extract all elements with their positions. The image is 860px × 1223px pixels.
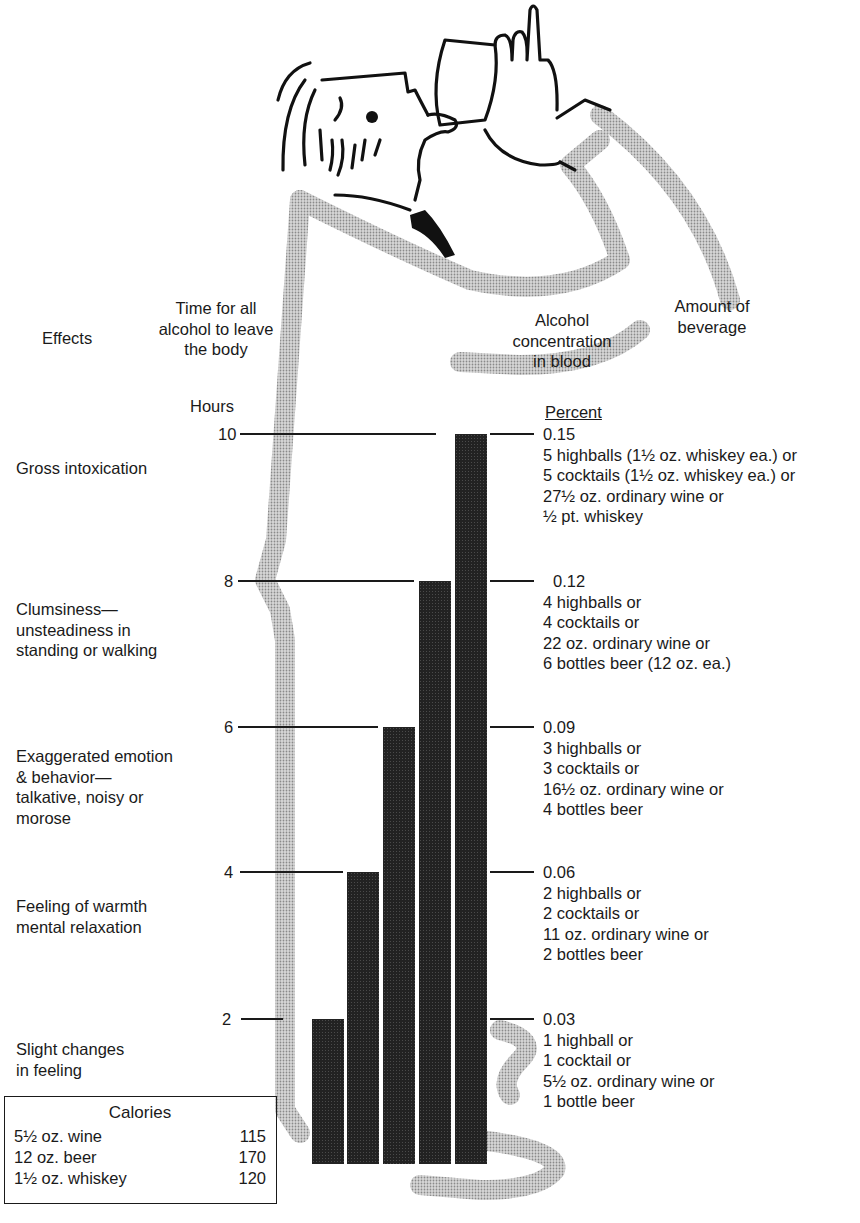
- beverage-level-10: 0.15 5 highballs (1½ oz. whiskey ea.) or…: [543, 424, 797, 527]
- time-header-line: the body: [140, 339, 292, 360]
- effect-line: Clumsiness—: [16, 599, 157, 620]
- percent-tick-line: [490, 580, 534, 582]
- effect-line: morose: [16, 808, 173, 829]
- calories-table: Calories 5½ oz. wine 115 12 oz. beer 170…: [4, 1096, 277, 1204]
- hours-tick-line: [240, 871, 343, 873]
- beverage-line: 1 cocktail or: [543, 1050, 715, 1071]
- calories-item: 1½ oz. whiskey: [14, 1168, 127, 1189]
- percent-value: 0.03: [543, 1009, 715, 1030]
- beverage-line: 16½ oz. ordinary wine or: [543, 779, 724, 800]
- effect-level-2: Slight changes in feeling: [16, 1039, 124, 1080]
- effects-header: Effects: [42, 328, 92, 349]
- beverage-line: 2 bottles beer: [543, 944, 709, 965]
- effect-line: in feeling: [16, 1060, 124, 1081]
- hours-tick-6: 6: [224, 717, 233, 738]
- effect-level-10: Gross intoxication: [16, 458, 147, 479]
- effect-line: & behavior—: [16, 767, 173, 788]
- percent-tick-line: [490, 871, 534, 873]
- beverage-line: 1 highball or: [543, 1030, 715, 1051]
- bar-3-drinks: [383, 727, 415, 1164]
- percent-tick-line: [490, 433, 534, 435]
- percent-value: 0.15: [543, 424, 797, 445]
- effect-level-6: Exaggerated emotion & behavior— talkativ…: [16, 746, 173, 828]
- percent-unit-label: Percent: [545, 402, 602, 423]
- concentration-header-line: in blood: [500, 351, 624, 372]
- beverage-line: 4 highballs or: [543, 592, 731, 613]
- bar-2-drinks: [347, 872, 379, 1164]
- percent-value: 0.09: [543, 717, 724, 738]
- beverage-line: 1 bottle beer: [543, 1091, 715, 1112]
- percent-tick-line: [490, 726, 534, 728]
- effect-line: unsteadiness in: [16, 620, 157, 641]
- amount-header: Amount of beverage: [662, 296, 762, 337]
- percent-value: 0.12: [543, 571, 731, 592]
- beverage-line: ½ pt. whiskey: [543, 506, 797, 527]
- calories-row: 5½ oz. wine 115: [14, 1126, 266, 1147]
- hours-tick-line: [241, 1018, 283, 1020]
- head-and-hand-lines: [278, 6, 610, 210]
- time-header: Time for all alcohol to leave the body: [140, 298, 292, 360]
- effect-line: Exaggerated emotion: [16, 746, 173, 767]
- calories-value: 115: [240, 1126, 266, 1147]
- concentration-header-line: concentration: [500, 331, 624, 352]
- time-header-line: alcohol to leave: [140, 319, 292, 340]
- effect-line: standing or walking: [16, 640, 157, 661]
- concentration-header: Alcohol concentration in blood: [500, 310, 624, 372]
- beverage-level-6: 0.09 3 highballs or 3 cocktails or 16½ o…: [543, 717, 724, 820]
- concentration-header-line: Alcohol: [500, 310, 624, 331]
- beverage-line: 27½ oz. ordinary wine or: [543, 486, 797, 507]
- beverage-line: 2 cocktails or: [543, 903, 709, 924]
- calories-item: 12 oz. beer: [14, 1147, 97, 1168]
- calories-title: Calories: [14, 1101, 266, 1124]
- effect-line: talkative, noisy or: [16, 787, 173, 808]
- percent-tick-line: [490, 1018, 534, 1020]
- effect-line: mental relaxation: [16, 917, 147, 938]
- calories-value: 120: [238, 1168, 266, 1189]
- hours-tick-4: 4: [224, 862, 233, 883]
- hours-tick-2: 2: [222, 1009, 231, 1030]
- beverage-level-2: 0.03 1 highball or 1 cocktail or 5½ oz. …: [543, 1009, 715, 1112]
- amount-header-line: Amount of: [662, 296, 762, 317]
- effect-line: Gross intoxication: [16, 458, 147, 479]
- beverage-line: 3 cocktails or: [543, 758, 724, 779]
- calories-row: 1½ oz. whiskey 120: [14, 1168, 266, 1189]
- effect-level-4: Feeling of warmth mental relaxation: [16, 896, 147, 937]
- bar-4-drinks: [419, 581, 451, 1164]
- hours-tick-line: [238, 726, 378, 728]
- hours-tick-10: 10: [218, 424, 236, 445]
- eye-icon: [366, 111, 378, 123]
- beverage-line: 5½ oz. ordinary wine or: [543, 1071, 715, 1092]
- calories-item: 5½ oz. wine: [14, 1126, 102, 1147]
- beverage-line: 4 cocktails or: [543, 612, 731, 633]
- amount-header-line: beverage: [662, 317, 762, 338]
- beverage-line: 5 highballs (1½ oz. whiskey ea.) or: [543, 445, 797, 466]
- effect-level-8: Clumsiness— unsteadiness in standing or …: [16, 599, 157, 661]
- bar-1-drink: [312, 1019, 344, 1164]
- effect-line: Feeling of warmth: [16, 896, 147, 917]
- time-header-line: Time for all: [140, 298, 292, 319]
- beverage-level-4: 0.06 2 highballs or 2 cocktails or 11 oz…: [543, 862, 709, 965]
- hours-tick-8: 8: [224, 571, 233, 592]
- hours-unit-label: Hours: [190, 396, 234, 417]
- effect-line: Slight changes: [16, 1039, 124, 1060]
- hours-tick-line: [238, 580, 414, 582]
- beverage-line: 2 highballs or: [543, 883, 709, 904]
- bar-5-drinks: [455, 434, 487, 1164]
- beverage-level-8: 0.12 4 highballs or 4 cocktails or 22 oz…: [543, 571, 731, 674]
- calories-value: 170: [238, 1147, 266, 1168]
- beverage-line: 11 oz. ordinary wine or: [543, 924, 709, 945]
- calories-row: 12 oz. beer 170: [14, 1147, 266, 1168]
- beverage-line: 22 oz. ordinary wine or: [543, 633, 731, 654]
- percent-value: 0.06: [543, 862, 709, 883]
- hours-tick-line: [240, 433, 436, 435]
- beverage-line: 5 cocktails (1½ oz. whiskey ea.) or: [543, 465, 797, 486]
- beverage-line: 3 highballs or: [543, 738, 724, 759]
- beverage-line: 6 bottles beer (12 oz. ea.): [543, 653, 731, 674]
- beverage-line: 4 bottles beer: [543, 799, 724, 820]
